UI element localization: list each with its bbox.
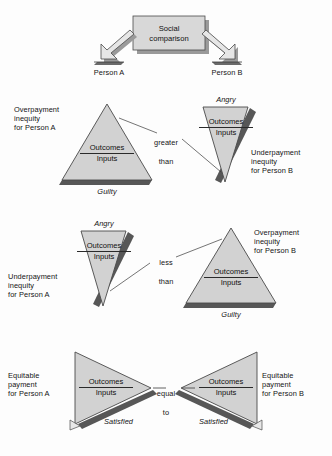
fraction-numerator: Outcomes [199, 377, 253, 388]
row2-left-description: Underpayment inequity for Person A [8, 272, 80, 300]
row1-right-fraction: Outcomes Inputs [199, 117, 253, 138]
branch-label-person-a: Person A [79, 68, 139, 77]
row2-connector-label: less than [146, 249, 186, 286]
fraction-denominator: Inputs [79, 388, 133, 398]
left-branch-arrow [101, 30, 134, 59]
row1-connector-line2: than [159, 157, 174, 166]
row3-right-emotion: Satisfied [168, 417, 228, 426]
fraction-denominator: Inputs [204, 278, 258, 288]
row1-left-shadow [59, 180, 152, 185]
fraction-numerator: Outcomes [80, 143, 134, 154]
row1-left-fraction: Outcomes Inputs [80, 143, 134, 164]
row1-right-description: Underpayment inequity for Person B [251, 148, 327, 176]
row3-connector-line1: equal [157, 389, 175, 398]
fraction-numerator: Outcomes [79, 377, 133, 388]
row3-left-fraction: Outcomes Inputs [79, 377, 133, 398]
fraction-denominator: Inputs [77, 252, 131, 262]
row1-connector-label: greater than [144, 129, 188, 166]
fraction-numerator: Outcomes [77, 241, 131, 252]
row3-right-description: Equitable payment for Person B [262, 371, 328, 399]
row1-connector-line1: greater [154, 138, 178, 147]
row3-left-description: Equitable payment for Person A [8, 371, 72, 399]
source-box-line2: comparison [149, 34, 188, 43]
row2-right-emotion: Guilty [201, 310, 261, 319]
row2-connector-line1: less [159, 258, 172, 267]
row2-right-fraction: Outcomes Inputs [204, 267, 258, 288]
right-arrow-base-bar [212, 62, 242, 65]
source-box-line1: Social [159, 24, 180, 33]
row2-connector-line2: than [159, 277, 174, 286]
source-box-label: Social comparison [135, 24, 203, 43]
row2-left-fraction: Outcomes Inputs [77, 241, 131, 262]
fraction-denominator: Inputs [199, 388, 253, 398]
row3-left-emotion: Satisfied [104, 417, 164, 426]
left-arrow-base-bar [94, 62, 124, 65]
row3-right-fraction: Outcomes Inputs [199, 377, 253, 398]
row2-right-description: Overpayment inequity for Person B [254, 228, 328, 256]
row1-left-emotion: Guilty [77, 187, 137, 196]
fraction-numerator: Outcomes [199, 117, 253, 128]
fraction-denominator: Inputs [80, 154, 134, 164]
branch-label-person-b: Person B [197, 68, 257, 77]
equity-theory-diagram: Social comparison Person A Person B Over… [0, 0, 332, 456]
row1-right-emotion: Angry [196, 95, 256, 104]
row2-left-emotion: Angry [74, 219, 134, 228]
fraction-denominator: Inputs [199, 128, 253, 138]
row3-connector-line2: to [163, 408, 169, 417]
fraction-numerator: Outcomes [204, 267, 258, 278]
row3-connector-label: equal to [147, 380, 185, 417]
row2-right-shadow [183, 303, 276, 308]
row1-left-description: Overpayment inequity for Person A [14, 105, 80, 133]
